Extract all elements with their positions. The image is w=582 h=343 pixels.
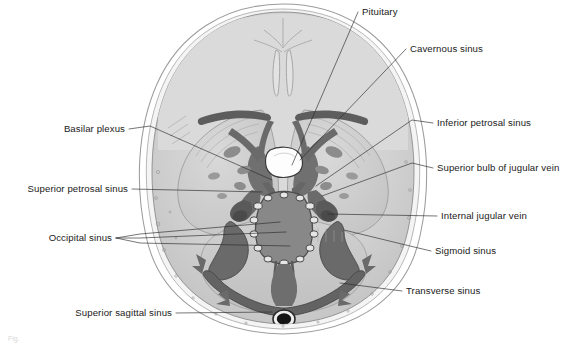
label-transverse-sinus: Transverse sinus [406,285,480,296]
anatomical-figure: Pituitary Cavernous sinus Inferior petro… [0,0,582,343]
label-superior-bulb-of-jugular-vein: Superior bulb of jugular vein [437,162,559,173]
label-superior-petrosal-sinus: Superior petrosal sinus [28,183,129,194]
label-sigmoid-sinus: Sigmoid sinus [435,245,496,256]
superior-sagittal-sinus-lumen [277,313,291,325]
figure-caption-partial: Fig. [8,335,20,343]
label-cavernous-sinus: Cavernous sinus [410,43,483,54]
brainstem-medulla [255,192,312,265]
figure-illustration: Pituitary Cavernous sinus Inferior petro… [0,0,582,343]
pituitary-gland [266,147,303,177]
label-occipital-sinus: Occipital sinus [49,232,112,243]
label-superior-sagittal-sinus: Superior sagittal sinus [75,307,172,318]
label-internal-jugular-vein: Internal jugular vein [441,210,527,221]
label-basilar-plexus: Basilar plexus [64,123,125,134]
label-pituitary: Pituitary [362,6,398,17]
label-inferior-petrosal-sinus: Inferior petrosal sinus [437,117,531,128]
